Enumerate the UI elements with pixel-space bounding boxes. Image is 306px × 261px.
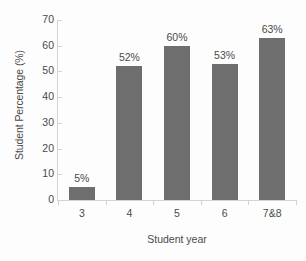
- x-tick-mark: [106, 201, 107, 205]
- bar: [69, 187, 95, 200]
- x-tick-label: 5: [152, 206, 202, 220]
- bar-value-label: 60%: [152, 31, 202, 43]
- y-tick-label: 50: [14, 65, 54, 75]
- x-tick-mark: [153, 201, 154, 205]
- y-tick-label: 60: [14, 40, 54, 50]
- y-tick-label: 0: [14, 194, 54, 204]
- bar-chart: Student Percentage (%) 010203040506070 3…: [0, 0, 306, 261]
- y-tick-label: 70: [14, 14, 54, 24]
- bar-value-label: 5%: [57, 172, 107, 184]
- x-tick-mark: [296, 201, 297, 205]
- y-tick-label: 20: [14, 143, 54, 153]
- bar: [164, 46, 190, 200]
- x-tick-mark: [201, 201, 202, 205]
- x-axis-title: Student year: [58, 232, 296, 246]
- bar-value-label: 53%: [200, 49, 250, 61]
- bar-value-label: 63%: [247, 23, 297, 35]
- y-tick-label: 30: [14, 117, 54, 127]
- y-tick-label: 40: [14, 91, 54, 101]
- bar-value-label: 52%: [104, 51, 154, 63]
- bar: [116, 66, 142, 200]
- x-tick-label: 7&8: [247, 206, 297, 220]
- x-tick-mark: [58, 201, 59, 205]
- x-tick-label: 4: [104, 206, 154, 220]
- x-tick-mark: [248, 201, 249, 205]
- y-tick-label: 10: [14, 168, 54, 178]
- x-tick-label: 3: [57, 206, 107, 220]
- x-tick-label: 6: [200, 206, 250, 220]
- bar: [212, 64, 238, 200]
- x-axis-line: [57, 200, 297, 201]
- bar: [259, 38, 285, 200]
